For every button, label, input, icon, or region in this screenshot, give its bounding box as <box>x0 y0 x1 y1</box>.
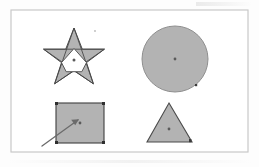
square-centroid-dot <box>79 122 82 125</box>
shape-circle <box>142 26 208 92</box>
scan-speck <box>94 30 96 32</box>
geometric-shapes-figure <box>0 0 259 167</box>
figure-border <box>11 10 248 152</box>
star-centroid-dot <box>73 59 76 62</box>
scanned-figure-page <box>0 0 259 167</box>
circle-centroid-dot <box>174 58 177 61</box>
circle-edge-mark <box>195 84 197 86</box>
stray-mark <box>189 139 191 142</box>
triangle-centroid-dot <box>168 128 171 131</box>
